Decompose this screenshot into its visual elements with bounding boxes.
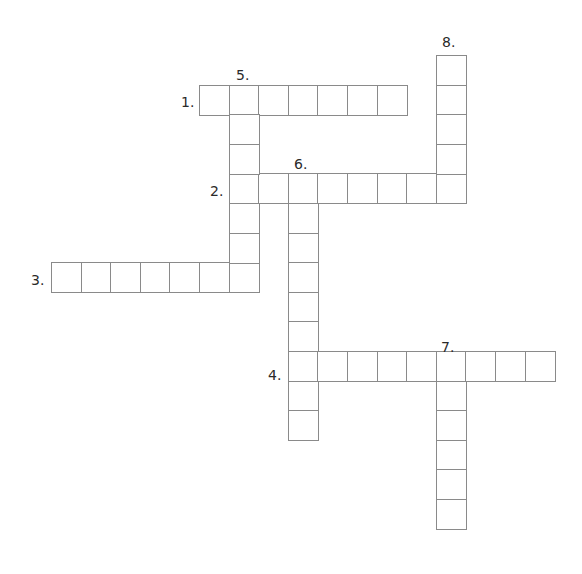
clue-number-down: 7.	[441, 340, 454, 354]
crossword-cell[interactable]	[229, 262, 260, 293]
crossword-grid: 1.2.3.4.5.6.7.8.	[0, 0, 582, 574]
crossword-cell[interactable]	[347, 351, 378, 382]
crossword-cell[interactable]	[317, 173, 348, 204]
crossword-cell[interactable]	[288, 262, 319, 293]
clue-number-across: 2.	[210, 184, 223, 198]
crossword-cell[interactable]	[288, 203, 319, 234]
clue-number-down: 5.	[236, 68, 249, 82]
clue-number-across: 3.	[31, 273, 44, 287]
crossword-cell[interactable]	[347, 85, 378, 116]
crossword-cell[interactable]	[436, 173, 467, 204]
crossword-cell[interactable]	[229, 144, 260, 175]
crossword-cell[interactable]	[229, 85, 260, 116]
clue-number-across: 1.	[181, 95, 194, 109]
crossword-cell[interactable]	[436, 144, 467, 175]
crossword-cell[interactable]	[288, 351, 319, 382]
crossword-cell[interactable]	[229, 114, 260, 145]
clue-number-down: 8.	[442, 35, 455, 49]
crossword-cell[interactable]	[288, 173, 319, 204]
crossword-cell[interactable]	[229, 173, 260, 204]
crossword-cell[interactable]	[436, 381, 467, 412]
crossword-cell[interactable]	[465, 351, 496, 382]
crossword-cell[interactable]	[495, 351, 526, 382]
crossword-cell[interactable]	[436, 410, 467, 441]
crossword-cell[interactable]	[229, 233, 260, 264]
crossword-cell[interactable]	[406, 173, 437, 204]
clue-number-down: 6.	[294, 157, 307, 171]
crossword-cell[interactable]	[258, 173, 289, 204]
crossword-cell[interactable]	[169, 262, 200, 293]
crossword-cell[interactable]	[377, 351, 408, 382]
crossword-cell[interactable]	[406, 351, 437, 382]
crossword-cell[interactable]	[288, 410, 319, 441]
crossword-cell[interactable]	[525, 351, 556, 382]
crossword-cell[interactable]	[258, 85, 289, 116]
clue-number-across: 4.	[268, 368, 281, 382]
crossword-cell[interactable]	[317, 85, 348, 116]
crossword-cell[interactable]	[436, 351, 467, 382]
crossword-cell[interactable]	[377, 173, 408, 204]
crossword-cell[interactable]	[347, 173, 378, 204]
crossword-cell[interactable]	[229, 203, 260, 234]
crossword-cell[interactable]	[436, 469, 467, 500]
crossword-cell[interactable]	[377, 85, 408, 116]
crossword-cell[interactable]	[288, 292, 319, 323]
crossword-cell[interactable]	[199, 85, 230, 116]
crossword-cell[interactable]	[436, 114, 467, 145]
crossword-cell[interactable]	[288, 381, 319, 412]
crossword-cell[interactable]	[51, 262, 82, 293]
crossword-cell[interactable]	[140, 262, 171, 293]
crossword-cell[interactable]	[436, 85, 467, 116]
crossword-cell[interactable]	[81, 262, 112, 293]
crossword-cell[interactable]	[288, 321, 319, 352]
crossword-cell[interactable]	[288, 85, 319, 116]
crossword-cell[interactable]	[436, 499, 467, 530]
crossword-cell[interactable]	[110, 262, 141, 293]
crossword-cell[interactable]	[199, 262, 230, 293]
crossword-cell[interactable]	[288, 233, 319, 264]
crossword-cell[interactable]	[436, 55, 467, 86]
crossword-cell[interactable]	[436, 440, 467, 471]
crossword-cell[interactable]	[317, 351, 348, 382]
